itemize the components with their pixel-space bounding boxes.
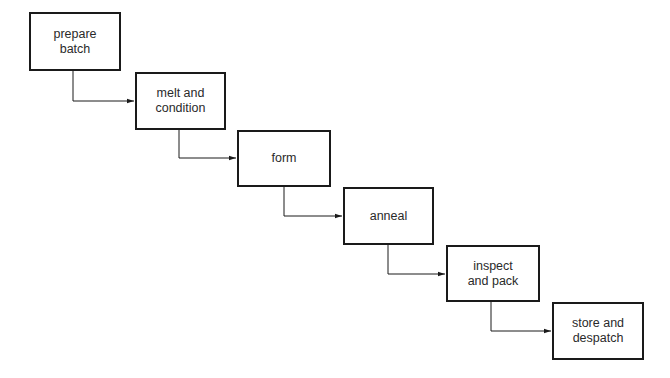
connector-arrow — [73, 71, 134, 101]
step-store-and-despatch: store and despatch — [552, 302, 644, 360]
step-prepare-batch: prepare batch — [29, 12, 121, 71]
connector-arrow — [179, 130, 236, 158]
step-anneal: anneal — [343, 187, 434, 245]
step-form: form — [237, 130, 331, 187]
step-label: melt and condition — [155, 86, 205, 116]
connector-arrow — [388, 245, 445, 274]
step-label: prepare batch — [53, 27, 96, 57]
process-flow-diagram: prepare batch melt and condition form an… — [0, 0, 670, 378]
step-melt-and-condition: melt and condition — [135, 72, 226, 130]
step-label: inspect and pack — [468, 259, 519, 289]
connector-arrow — [491, 302, 551, 331]
step-label: store and despatch — [572, 316, 624, 346]
connector-arrow — [284, 187, 342, 216]
step-label: form — [272, 151, 297, 166]
step-label: anneal — [370, 209, 408, 224]
step-inspect-and-pack: inspect and pack — [446, 245, 540, 302]
